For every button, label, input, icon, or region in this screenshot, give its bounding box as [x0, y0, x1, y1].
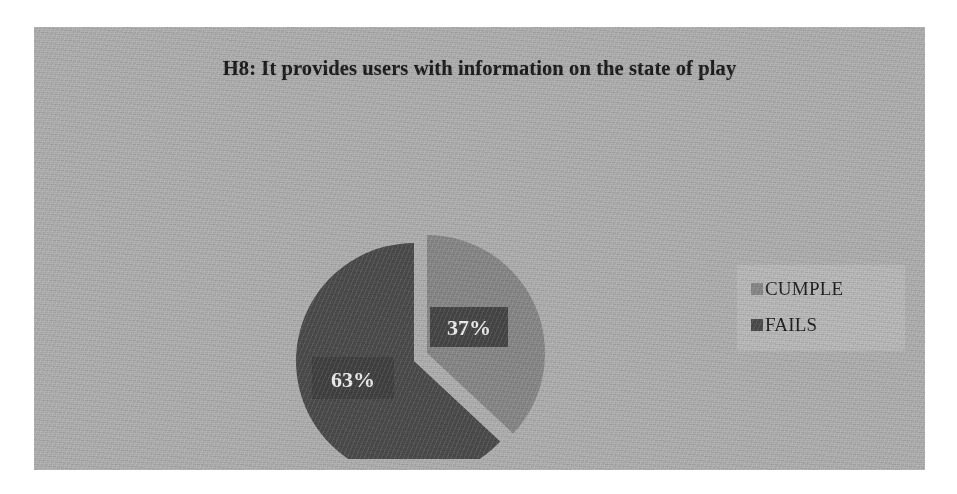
pie-data-label-fails: 63%: [312, 357, 394, 399]
legend-swatch-fails-icon: [751, 319, 763, 331]
legend-label-fails: FAILS: [765, 315, 817, 334]
chart-legend: CUMPLE FAILS: [737, 265, 905, 351]
chart-plot-area: H8: It provides users with information o…: [34, 27, 925, 470]
pie-data-label-cumple-text: 37%: [447, 315, 491, 340]
pie-chart: 37% 63%: [232, 159, 572, 459]
chart-title: H8: It provides users with information o…: [34, 57, 925, 80]
pie-chart-svg: 37% 63%: [232, 159, 572, 459]
legend-swatch-cumple-icon: [751, 283, 763, 295]
legend-item-cumple[interactable]: CUMPLE: [751, 279, 843, 298]
pie-data-label-fails-text: 63%: [331, 367, 375, 392]
figure-root: H8: It provides users with information o…: [0, 0, 957, 494]
legend-item-fails[interactable]: FAILS: [751, 315, 817, 334]
pie-data-label-cumple: 37%: [430, 307, 508, 347]
legend-label-cumple: CUMPLE: [765, 279, 843, 298]
